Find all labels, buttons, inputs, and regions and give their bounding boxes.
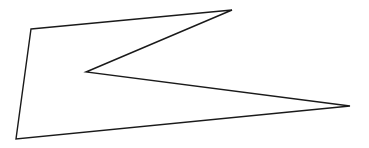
- diagram-svg: [0, 0, 369, 148]
- diagram-canvas: [0, 0, 369, 148]
- concave-polygon-outline: [16, 10, 350, 139]
